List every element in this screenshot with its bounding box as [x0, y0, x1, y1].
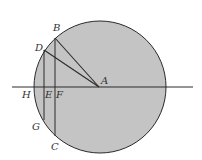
label-c: C	[51, 141, 59, 152]
geometry-diagram: B D A H E F G C	[0, 0, 202, 160]
label-b: B	[52, 22, 60, 33]
label-a: A	[100, 75, 108, 86]
label-e: E	[44, 89, 53, 100]
label-g: G	[32, 121, 40, 132]
label-h: H	[21, 89, 31, 100]
label-d: D	[34, 42, 43, 53]
label-f: F	[55, 89, 64, 100]
